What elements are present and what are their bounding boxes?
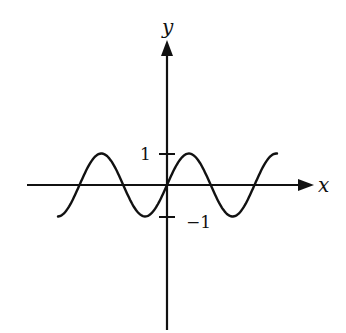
x-axis-label: x [318,173,329,197]
y-axis-label: y [161,15,174,39]
x-axis-arrow-icon [298,179,314,191]
y-axis-arrow-icon [161,40,173,56]
tick-label-neg-1: −1 [186,212,211,232]
tick-label-1: 1 [140,144,151,164]
sine-graph: y x 1 −1 [0,0,346,333]
